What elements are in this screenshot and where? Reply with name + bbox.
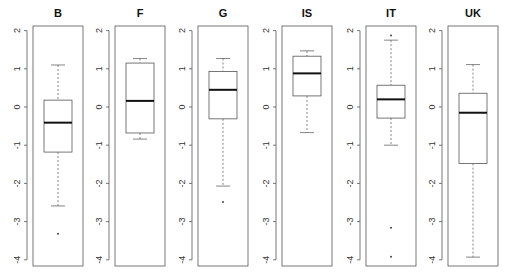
y-tick-label: -3 — [261, 218, 271, 226]
y-tick-label: 1 — [94, 66, 104, 71]
y-tick-label: 1 — [12, 66, 22, 71]
iqr-box — [459, 93, 487, 163]
panel-it: IT210-1-2-3-4 — [345, 7, 416, 266]
panel-uk: UK210-1-2-3-4 — [427, 7, 498, 266]
y-tick-label: 2 — [427, 28, 437, 33]
y-tick-label: 1 — [427, 66, 437, 71]
y-tick-label: -1 — [12, 141, 22, 149]
plot-frame — [115, 26, 165, 266]
y-tick-label: -4 — [261, 256, 271, 264]
y-tick-label: 0 — [261, 104, 271, 109]
y-tick-label: -2 — [345, 179, 355, 187]
iqr-box — [44, 100, 72, 152]
y-tick-label: 2 — [12, 28, 22, 33]
y-tick-label: -3 — [177, 218, 187, 226]
y-tick-label: 1 — [345, 66, 355, 71]
iqr-box — [126, 63, 154, 133]
panel-title: F — [137, 7, 144, 19]
panel-title: UK — [465, 7, 481, 19]
outlier-point — [390, 35, 392, 37]
panel-title: B — [54, 7, 62, 19]
y-tick-label: -1 — [261, 141, 271, 149]
plot-frame — [198, 26, 248, 266]
y-tick-label: -4 — [12, 256, 22, 264]
y-tick-label: -3 — [345, 218, 355, 226]
y-tick-label: -4 — [345, 256, 355, 264]
outlier-point — [390, 227, 392, 229]
panel-title: IS — [302, 7, 312, 19]
y-tick-label: -4 — [427, 256, 437, 264]
panel-f: F210-1-2-3-4 — [94, 7, 165, 266]
y-tick-label: -3 — [94, 218, 104, 226]
y-tick-label: -2 — [261, 179, 271, 187]
outlier-point — [222, 201, 224, 203]
iqr-box — [209, 71, 237, 118]
outlier-point — [57, 233, 59, 235]
y-tick-label: 2 — [94, 28, 104, 33]
y-tick-label: -4 — [94, 256, 104, 264]
y-tick-label: 1 — [177, 66, 187, 71]
y-tick-label: 2 — [177, 28, 187, 33]
y-tick-label: -1 — [177, 141, 187, 149]
panel-b: B210-1-2-3-4 — [12, 7, 83, 266]
iqr-box — [377, 85, 405, 118]
y-tick-label: -2 — [427, 179, 437, 187]
y-tick-label: -1 — [427, 141, 437, 149]
y-tick-label: 0 — [345, 104, 355, 109]
y-tick-label: -2 — [12, 179, 22, 187]
y-tick-label: -2 — [94, 179, 104, 187]
panel-title: G — [219, 7, 228, 19]
y-tick-label: 0 — [427, 104, 437, 109]
y-tick-label: 2 — [261, 28, 271, 33]
y-tick-label: 0 — [12, 104, 22, 109]
iqr-box — [293, 56, 321, 96]
y-tick-label: 1 — [261, 66, 271, 71]
y-tick-label: -2 — [177, 179, 187, 187]
panel-g: G210-1-2-3-4 — [177, 7, 248, 266]
y-tick-label: 0 — [177, 104, 187, 109]
y-tick-label: -1 — [345, 141, 355, 149]
boxplot-figure: B210-1-2-3-4F210-1-2-3-4G210-1-2-3-4IS21… — [0, 0, 512, 279]
panel-title: IT — [386, 7, 396, 19]
y-tick-label: -4 — [177, 256, 187, 264]
y-tick-label: 2 — [345, 28, 355, 33]
y-tick-label: -3 — [427, 218, 437, 226]
y-tick-label: -1 — [94, 141, 104, 149]
y-tick-label: 0 — [94, 104, 104, 109]
panel-is: IS210-1-2-3-4 — [261, 7, 332, 266]
outlier-point — [390, 256, 392, 258]
y-tick-label: -3 — [12, 218, 22, 226]
